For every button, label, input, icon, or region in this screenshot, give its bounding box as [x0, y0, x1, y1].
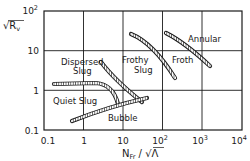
x-tick-10: 10 [117, 136, 129, 146]
y-tick-10: 10 [28, 46, 40, 56]
y-tick-0.1: 0.1 [25, 126, 39, 136]
x-tick-10000: 104 [231, 134, 247, 146]
x-tick-0.1: 0.1 [41, 136, 55, 146]
x-tick-1: 1 [81, 136, 87, 146]
y-tick-100: 102 [22, 4, 38, 16]
x-tick-1000: 103 [192, 134, 208, 146]
region-annular-label: Annular [188, 34, 222, 44]
y-tick-1: 1 [33, 86, 39, 96]
x-tick-100: 102 [152, 134, 168, 146]
flow-regime-chart: Dispersed Slug Frothy Slug Froth Annular… [0, 0, 250, 161]
region-dispersed-label-2: Slug [73, 66, 92, 76]
region-frothy-label-2: Slug [134, 65, 153, 75]
x-axis-ticks: 0.1 1 10 102 103 104 [41, 134, 247, 146]
boundary-bands [54, 33, 210, 121]
region-frothy-label-1: Frothy [122, 55, 149, 65]
y-axis-ticks: 102 10 1 0.1 [22, 4, 39, 136]
y-axis-label: √Rv [3, 20, 20, 33]
x-axis-label: NFr / √Λ [122, 148, 159, 161]
region-labels: Dispersed Slug Frothy Slug Froth Annular… [53, 34, 222, 123]
region-quiet-slug-label: Quiet Slug [53, 96, 97, 106]
region-froth-label: Froth [172, 55, 194, 65]
region-bubble-label: Bubble [108, 113, 138, 123]
